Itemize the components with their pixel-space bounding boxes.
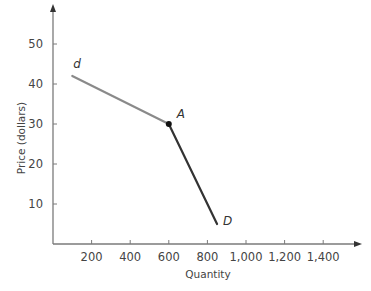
label-d: d bbox=[73, 57, 81, 71]
x-tick-label: 1,400 bbox=[307, 250, 340, 264]
label-A: A bbox=[176, 107, 185, 121]
x-tick-label: 1,200 bbox=[268, 250, 301, 264]
y-tick-label: 40 bbox=[28, 77, 43, 91]
y-tick-label: 10 bbox=[28, 197, 43, 211]
x-tick-label: 600 bbox=[158, 250, 180, 264]
x-tick-label: 400 bbox=[119, 250, 141, 264]
y-tick-label: 20 bbox=[28, 157, 43, 171]
y-tick-label: 50 bbox=[28, 37, 43, 51]
x-axis-title: Quantity bbox=[185, 268, 230, 280]
demand-curves bbox=[72, 76, 217, 224]
curve-d bbox=[72, 76, 169, 124]
label-D: D bbox=[223, 214, 232, 228]
point-A-marker bbox=[166, 121, 172, 127]
curve-D bbox=[169, 124, 217, 224]
curve-annotations: dAD bbox=[73, 57, 232, 228]
x-axis-arrow-icon bbox=[354, 241, 362, 247]
kinked-demand-chart: 1020304050 2004006008001,0001,2001,400 d… bbox=[0, 0, 371, 291]
x-tick-label: 200 bbox=[81, 250, 103, 264]
x-tick-label: 800 bbox=[196, 250, 218, 264]
y-axis-title: Price (dollars) bbox=[15, 102, 27, 174]
axes bbox=[50, 4, 362, 247]
x-tick-label: 1,000 bbox=[230, 250, 263, 264]
y-axis-arrow-icon bbox=[50, 4, 56, 12]
y-tick-label: 30 bbox=[28, 117, 43, 131]
